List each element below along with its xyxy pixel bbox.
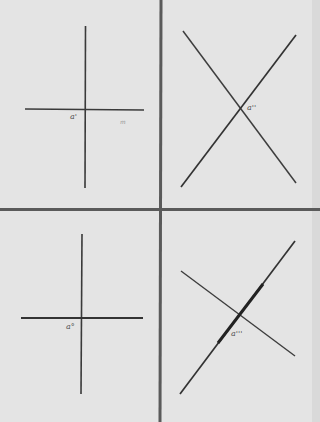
label-a-degree: a° <box>66 323 75 331</box>
tl-horizontal-line <box>25 109 144 110</box>
bl-vertical-line <box>81 234 82 394</box>
tl-vertical-line <box>85 26 86 188</box>
label-a-triple-prime: a''' <box>231 330 242 338</box>
figure-canvas <box>0 0 320 422</box>
figure-page: a' m a'' a° a''' <box>0 0 320 422</box>
label-m: m <box>120 119 126 125</box>
label-a-prime: a' <box>70 113 77 121</box>
label-a-double-prime: a'' <box>247 104 256 112</box>
